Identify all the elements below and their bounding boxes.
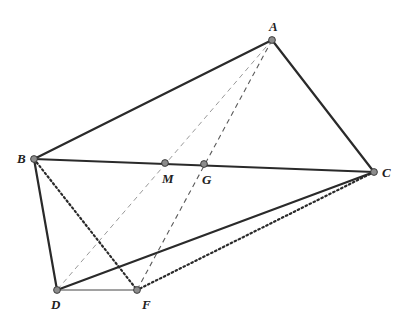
segment-ab [34,40,272,159]
point-label-d: D [50,297,61,312]
point-m [162,160,169,167]
geometry-diagram: ABCDFMG [0,0,405,321]
point-f [134,287,141,294]
point-label-b: B [16,151,26,166]
point-g [201,161,208,168]
point-label-m: M [161,171,174,186]
point-label-f: F [141,297,151,312]
segment-bd [34,159,57,290]
point-label-a: A [268,19,278,34]
point-c [371,169,378,176]
point-label-c: C [382,165,391,180]
segment-bf [34,159,137,290]
segment-ac [272,40,374,172]
point-b [31,156,38,163]
point-d [54,287,61,294]
point-label-g: G [202,172,212,187]
segment-dc [57,172,374,290]
point-a [269,37,276,44]
segment-cf [137,172,374,290]
